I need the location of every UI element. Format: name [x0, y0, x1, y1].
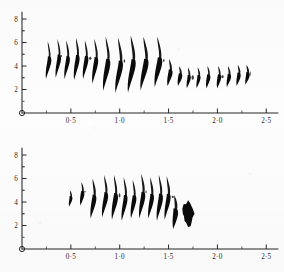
x-tick-label: 2·5 — [261, 253, 271, 261]
spike-upper-tail — [81, 182, 83, 192]
ink-fleck — [84, 191, 85, 193]
spike-lower-blade — [206, 74, 210, 88]
ink-fleck — [163, 59, 165, 62]
figure-root: 0·51·01·52·02·52468 0·51·01·52·02·52468 — [0, 0, 284, 272]
y-tick-label: 2 — [14, 222, 18, 230]
spike-lower-blade — [83, 56, 89, 79]
spike-lower-blade — [90, 195, 96, 219]
ink-fleck — [250, 71, 251, 75]
ink-fleck — [172, 196, 174, 198]
y-tick-label: 6 — [14, 175, 18, 183]
upper-plot-svg: 0·51·01·52·02·52468 — [0, 0, 284, 136]
x-tick-label: 2·5 — [261, 117, 271, 125]
y-tick-label: 6 — [14, 39, 18, 47]
spike-upper-tail — [104, 175, 107, 194]
spike-upper-tail — [169, 59, 172, 71]
spike-lower-blade — [46, 56, 52, 79]
x-tick-label: 1·0 — [115, 117, 125, 125]
spike-lower-blade — [92, 57, 98, 84]
ink-fleck — [124, 59, 126, 62]
spike-trace-group — [46, 35, 251, 93]
spike-upper-tail — [150, 177, 153, 195]
spike-lower-blade — [74, 55, 80, 80]
spike-lower-blade — [155, 57, 163, 87]
y-tick-label: 8 — [14, 16, 18, 24]
spike-upper-tail — [66, 40, 69, 57]
spike-upper-tail — [131, 35, 135, 60]
ink-fleck — [61, 55, 62, 57]
y-tick-label: 2 — [14, 86, 18, 94]
spike-upper-tail — [157, 37, 161, 59]
spike-upper-tail — [85, 40, 88, 57]
ink-fleck — [89, 57, 91, 60]
spike-upper-tail — [106, 37, 110, 61]
spike-lower-blade — [128, 59, 136, 93]
lower-plot-panel: 0·51·01·52·02·52468 — [0, 136, 284, 272]
spike-lower-blade — [167, 69, 172, 86]
y-tick-label: 8 — [14, 152, 18, 160]
spike-lower-blade — [148, 194, 154, 219]
ink-fleck — [221, 75, 223, 78]
spike-upper-tail — [76, 38, 79, 57]
spike-lower-blade — [112, 193, 118, 220]
spike-lower-blade — [173, 208, 178, 229]
spike-lower-blade — [227, 74, 232, 87]
spike-lower-blade — [64, 56, 70, 79]
spike-lower-blade — [245, 72, 250, 85]
spike-lower-blade — [80, 191, 84, 206]
y-tick-label: 4 — [14, 63, 18, 71]
spike-upper-tail — [93, 179, 96, 197]
spike-trace-group — [69, 174, 195, 229]
spike-upper-tail — [124, 177, 127, 196]
x-tick-label: 0·5 — [66, 117, 76, 125]
spike-lower-blade — [115, 61, 123, 94]
spike-upper-tail — [167, 176, 170, 195]
spike-upper-tail — [48, 41, 51, 58]
spike-upper-tail — [133, 180, 136, 197]
ink-fleck — [145, 190, 146, 193]
spike-lower-blade — [164, 194, 170, 220]
terminal-ink-core — [184, 205, 193, 222]
spike-lower-blade — [131, 195, 137, 218]
spike-upper-tail — [118, 38, 122, 62]
x-tick-label: 2·0 — [212, 253, 222, 261]
spike-upper-tail — [141, 174, 144, 194]
spike-lower-blade — [157, 194, 163, 221]
spike-lower-blade — [121, 195, 127, 221]
spike-upper-tail — [143, 37, 147, 61]
x-tick-label: 1·5 — [163, 117, 173, 125]
spike-lower-blade — [69, 196, 73, 207]
spike-lower-blade — [187, 75, 191, 88]
spike-lower-blade — [140, 59, 148, 91]
spike-lower-blade — [178, 73, 183, 86]
spike-lower-blade — [56, 54, 62, 77]
x-tick-label: 2·0 — [212, 117, 222, 125]
spike-lower-blade — [103, 59, 110, 91]
lower-plot-svg: 0·51·01·52·02·52468 — [0, 136, 284, 272]
spike-lower-blade — [102, 192, 108, 217]
spike-upper-tail — [114, 175, 117, 195]
spike-upper-tail — [57, 39, 60, 56]
upper-plot-panel: 0·51·01·52·02·52468 — [0, 0, 284, 136]
x-tick-label: 1·5 — [163, 253, 173, 261]
ink-fleck — [119, 193, 121, 197]
spike-upper-tail — [174, 195, 177, 210]
x-tick-label: 0·5 — [66, 253, 76, 261]
spike-lower-blade — [139, 192, 145, 219]
spike-lower-blade — [217, 74, 221, 88]
spike-upper-tail — [159, 175, 162, 195]
spike-lower-blade — [196, 75, 200, 88]
spike-upper-tail — [94, 39, 97, 59]
ink-fleck — [192, 75, 194, 79]
x-tick-label: 1·0 — [115, 253, 125, 261]
spike-lower-blade — [236, 73, 240, 86]
y-tick-label: 4 — [14, 199, 18, 207]
